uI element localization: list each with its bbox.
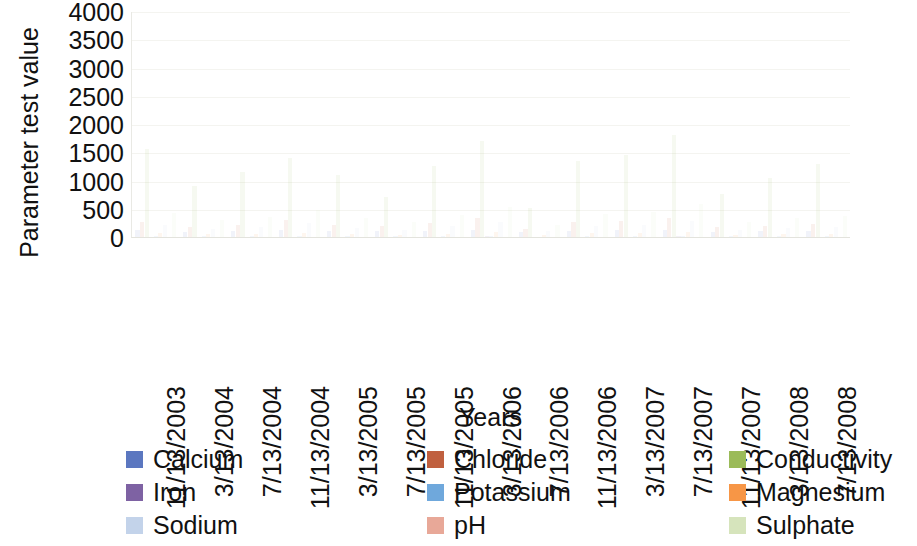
bar [432, 166, 436, 237]
bar [288, 158, 292, 237]
bar-group [471, 12, 512, 237]
bar [624, 155, 628, 237]
bar [402, 230, 406, 237]
bar [699, 204, 703, 237]
bar [690, 221, 694, 237]
bar [720, 194, 724, 237]
legend-item[interactable]: Potassium [427, 476, 571, 508]
bar [236, 225, 240, 237]
bar [619, 221, 623, 237]
bar [460, 215, 464, 237]
bar [519, 232, 523, 237]
legend-item[interactable]: Iron [126, 476, 196, 508]
bar [297, 236, 301, 237]
legend-swatch-icon [729, 451, 746, 468]
bar [715, 227, 719, 237]
legend-swatch-icon [729, 484, 746, 501]
legend-item[interactable]: Magnesium [729, 476, 885, 508]
legend-label: Calcium [153, 447, 243, 472]
bar-group [327, 12, 368, 237]
bar [332, 225, 336, 237]
bar [220, 220, 224, 237]
bar [471, 230, 475, 237]
legend-item[interactable]: Sodium [126, 509, 238, 541]
bar [279, 230, 283, 237]
bar [293, 237, 297, 238]
legend-swatch-icon [427, 517, 444, 534]
bar [672, 135, 676, 237]
bar [307, 223, 311, 237]
bar [145, 149, 149, 237]
bar [633, 236, 637, 237]
bar [738, 230, 742, 237]
bar [651, 212, 655, 237]
bar [284, 220, 288, 237]
x-axis-tick-labels: 11/13/20033/13/20047/13/200411/13/20043/… [131, 238, 850, 398]
bar [336, 175, 340, 237]
bar [733, 235, 737, 237]
bar [663, 230, 667, 237]
bar [555, 225, 559, 237]
bar [603, 214, 607, 237]
bar [240, 172, 244, 237]
legend-swatch-icon [427, 484, 444, 501]
legend-swatch-icon [126, 517, 143, 534]
bar [576, 161, 580, 237]
bar [681, 236, 685, 237]
legend-item[interactable]: Sulphate [729, 509, 855, 541]
bar [546, 231, 550, 237]
bar [428, 223, 432, 237]
bar-group [279, 12, 320, 237]
bar [594, 226, 598, 237]
bar [542, 235, 546, 237]
bar [777, 236, 781, 237]
bar [231, 231, 235, 237]
bar [667, 218, 671, 237]
bar [250, 236, 254, 237]
bar [686, 232, 690, 237]
bar [441, 236, 445, 237]
bars-layer [132, 12, 850, 237]
bar [811, 224, 815, 237]
y-axis-tick-label: 3500 [38, 28, 124, 53]
chart-legend: CalciumChlorideConductivityIronPotassium… [126, 443, 917, 543]
bar [528, 208, 532, 237]
bar [259, 227, 263, 237]
legend-label: Magnesium [756, 480, 885, 505]
legend-item[interactable]: Chloride [427, 443, 547, 475]
bar [316, 210, 320, 237]
bar [795, 218, 799, 237]
legend-item[interactable]: Calcium [126, 443, 243, 475]
y-axis-tick-label: 1500 [38, 141, 124, 166]
bar [638, 233, 642, 237]
bar [345, 236, 349, 237]
legend-item[interactable]: pH [427, 509, 486, 541]
bar [140, 222, 144, 237]
y-axis-tick-labels: 40003500300025002000150010005000 [38, 0, 124, 245]
bar-group [711, 12, 752, 237]
legend-label: Conductivity [756, 447, 892, 472]
bar-chart: Parameter test value 4000350030002500200… [0, 0, 917, 546]
bar [446, 234, 450, 238]
bar [494, 232, 498, 237]
bar [202, 236, 206, 237]
bar [758, 231, 762, 237]
bar [254, 234, 258, 237]
bar [729, 236, 733, 237]
bar-group [615, 12, 656, 237]
bar [834, 227, 838, 237]
y-axis-tick-label: 4000 [38, 0, 124, 25]
x-axis-title: Years [131, 405, 850, 430]
legend-item[interactable]: Conductivity [729, 443, 892, 475]
bar-group [231, 12, 272, 237]
bar [364, 218, 368, 237]
bar [154, 236, 158, 237]
legend-swatch-icon [126, 451, 143, 468]
legend-swatch-icon [126, 484, 143, 501]
bar [412, 222, 416, 237]
bar [786, 228, 790, 237]
bar [380, 226, 384, 237]
bar [375, 231, 379, 237]
bar [183, 232, 187, 237]
bar [537, 237, 541, 238]
